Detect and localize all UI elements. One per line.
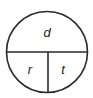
label-time: t — [61, 62, 66, 77]
label-rate: r — [28, 62, 33, 77]
formula-circle-diagram: d r t — [0, 0, 93, 98]
label-distance: d — [43, 25, 51, 40]
